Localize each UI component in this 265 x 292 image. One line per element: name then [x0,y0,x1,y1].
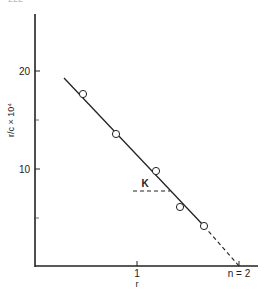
y-tick-label-20: 20 [19,66,31,77]
x-tick-label-1: 1 [134,268,140,279]
k-label: K [141,178,149,189]
y-tick-label-10: 10 [19,164,31,175]
scatchard-plot: 20 10 r/c × 10⁴ 1 n = 2 r K [0,0,265,292]
y-axis-label: r/c × 10⁴ [6,103,16,137]
y-axis: 20 10 r/c × 10⁴ [6,14,40,267]
fit-line-solid [64,78,204,226]
data-point [79,90,86,97]
data-point [152,167,159,174]
data-point [112,130,119,137]
data-point [176,203,183,210]
x-axis-label: r [136,279,139,289]
data-point [200,222,207,229]
fit-line-extrapolation [204,226,239,266]
fit-line [64,78,239,266]
x-tick-label-n2: n = 2 [228,268,251,279]
x-axis: 1 n = 2 r [35,261,258,289]
